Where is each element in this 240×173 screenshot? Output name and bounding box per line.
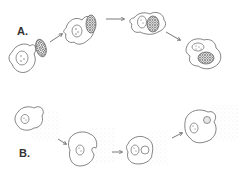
panel-b-cell-1 xyxy=(15,107,60,140)
panel-a-cell-4 xyxy=(186,39,221,69)
panel-a-cell-2 xyxy=(64,15,96,44)
diagram-canvas xyxy=(0,0,240,173)
panel-a-cell-3 xyxy=(130,12,166,34)
panel-a-cell-1 xyxy=(9,44,36,73)
arrow-a3 xyxy=(166,32,180,40)
arrow-a1 xyxy=(50,34,62,42)
arrow-b3 xyxy=(172,133,182,138)
arrow-b1 xyxy=(58,139,66,144)
panel-b-cell-4 xyxy=(185,105,238,143)
particle xyxy=(34,38,48,58)
panel-b-cell-3 xyxy=(127,130,169,164)
panel-b-cell-2 xyxy=(69,128,115,166)
